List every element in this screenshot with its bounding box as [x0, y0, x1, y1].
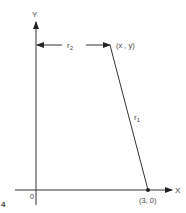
fixed-point-label: (3, 0) — [139, 196, 157, 205]
r2-label: r2 — [67, 41, 74, 51]
r1-segment — [110, 45, 148, 190]
figure-number: 4 — [1, 200, 6, 209]
y-axis-label: Y — [32, 10, 38, 19]
r1-label: r1 — [134, 113, 141, 123]
moving-point-label: (x , y) — [116, 41, 135, 50]
origin-label: 0 — [30, 193, 34, 200]
diagram-canvas: Y X 0 r2 r1 (x , y) (3, 0) 4 — [0, 0, 186, 213]
x-axis-label: X — [175, 186, 181, 195]
fixed-point-dot — [146, 188, 150, 192]
